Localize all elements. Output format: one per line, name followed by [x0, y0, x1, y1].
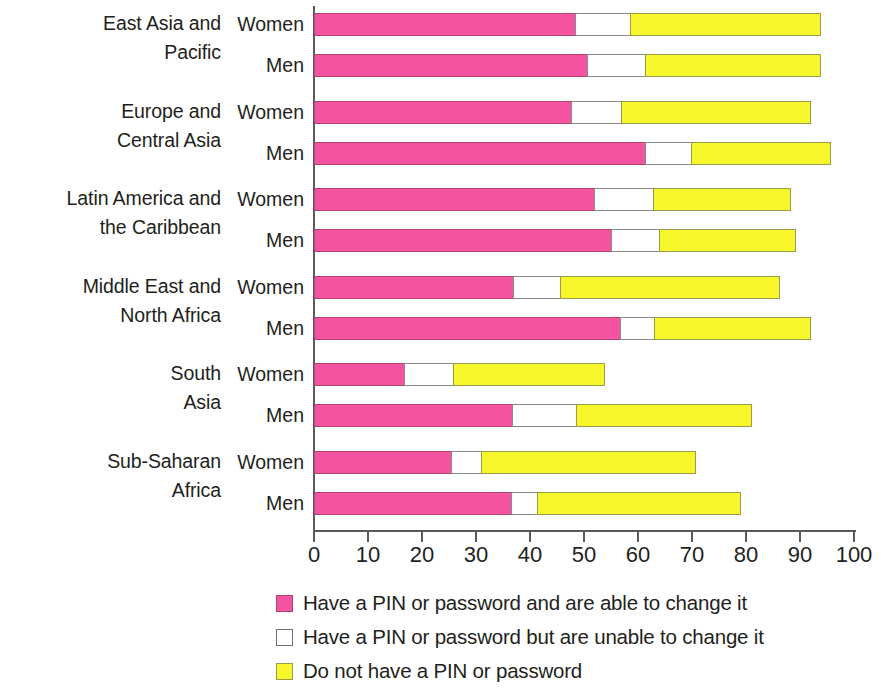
- bar-segment-pin-changeable: [314, 13, 576, 36]
- bar-row: Women: [0, 8, 881, 41]
- bar-segment-no-pin: [560, 276, 780, 299]
- bar-segment-no-pin: [653, 188, 791, 211]
- bar-segment-pin-fixed: [511, 492, 538, 515]
- chart-legend: Have a PIN or password and are able to c…: [276, 586, 881, 688]
- row-series-label: Men: [218, 224, 304, 257]
- bar-segment-no-pin: [691, 142, 831, 165]
- bar-row: Women: [0, 96, 881, 129]
- bar-segment-pin-fixed: [575, 13, 631, 36]
- x-axis-tick-label: 50: [554, 541, 614, 569]
- row-series-label: Men: [218, 137, 304, 170]
- bar-segment-no-pin: [621, 101, 811, 124]
- row-series-label: Women: [218, 358, 304, 391]
- bar-row: Women: [0, 358, 881, 391]
- stacked-bar: [314, 451, 696, 474]
- legend-swatch-pin-changeable: [276, 595, 293, 612]
- bar-row: Men: [0, 49, 881, 82]
- stacked-bar: [314, 54, 821, 77]
- stacked-bar: [314, 363, 605, 386]
- stacked-bar: [314, 229, 796, 252]
- legend-label: Have a PIN or password and are able to c…: [303, 590, 747, 616]
- bar-segment-pin-fixed: [513, 276, 561, 299]
- row-series-label: Women: [218, 271, 304, 304]
- stacked-bar: [314, 142, 831, 165]
- bar-group: East Asia and PacificWomenMen: [0, 8, 881, 82]
- stacked-bar-chart: East Asia and PacificWomenMenEurope and …: [0, 0, 881, 694]
- bar-segment-no-pin: [481, 451, 696, 474]
- bar-segment-no-pin: [576, 404, 752, 427]
- bar-row: Men: [0, 399, 881, 432]
- legend-item[interactable]: Do not have a PIN or password: [276, 654, 881, 688]
- bar-segment-pin-changeable: [314, 276, 514, 299]
- bar-segment-pin-changeable: [314, 229, 612, 252]
- legend-swatch-pin-fixed: [276, 629, 293, 646]
- bar-segment-no-pin: [630, 13, 821, 36]
- bar-row: Women: [0, 183, 881, 216]
- x-axis-tick-label: 0: [284, 541, 344, 569]
- bar-group: Sub-Saharan AfricaWomenMen: [0, 446, 881, 520]
- row-series-label: Men: [218, 49, 304, 82]
- legend-item[interactable]: Have a PIN or password but are unable to…: [276, 620, 881, 654]
- row-series-label: Women: [218, 446, 304, 479]
- bar-group: Middle East and North AfricaWomenMen: [0, 271, 881, 345]
- bar-row: Men: [0, 224, 881, 257]
- bar-segment-no-pin: [645, 54, 821, 77]
- bar-group: South AsiaWomenMen: [0, 358, 881, 432]
- stacked-bar: [314, 101, 811, 124]
- bar-segment-pin-fixed: [645, 142, 692, 165]
- bar-segment-pin-changeable: [314, 492, 512, 515]
- legend-swatch-no-pin: [276, 663, 293, 680]
- x-axis-tick-label: 100: [824, 541, 881, 569]
- bar-segment-no-pin: [654, 317, 811, 340]
- x-axis-tick-label: 10: [338, 541, 398, 569]
- stacked-bar: [314, 492, 741, 515]
- bar-row: Women: [0, 271, 881, 304]
- bar-group: Europe and Central AsiaWomenMen: [0, 96, 881, 170]
- bar-segment-pin-changeable: [314, 317, 621, 340]
- legend-label: Have a PIN or password but are unable to…: [303, 624, 764, 650]
- x-axis-tick-label: 30: [446, 541, 506, 569]
- stacked-bar: [314, 13, 821, 36]
- x-axis-tick-label: 60: [608, 541, 668, 569]
- bar-segment-pin-changeable: [314, 101, 572, 124]
- bar-row: Men: [0, 487, 881, 520]
- x-axis-tick-label: 40: [500, 541, 560, 569]
- bar-segment-pin-changeable: [314, 404, 513, 427]
- bar-row: Women: [0, 446, 881, 479]
- bar-segment-pin-changeable: [314, 363, 405, 386]
- bar-segment-no-pin: [659, 229, 796, 252]
- row-series-label: Men: [218, 399, 304, 432]
- row-series-label: Women: [218, 8, 304, 41]
- x-axis-tick-label: 80: [716, 541, 776, 569]
- plot-area: East Asia and PacificWomenMenEurope and …: [0, 0, 881, 540]
- bar-group: Latin America and the CaribbeanWomenMen: [0, 183, 881, 257]
- bar-segment-no-pin: [453, 363, 605, 386]
- row-series-label: Women: [218, 96, 304, 129]
- x-axis-tick-label: 70: [662, 541, 722, 569]
- bar-segment-pin-changeable: [314, 451, 452, 474]
- bar-segment-pin-fixed: [620, 317, 655, 340]
- bar-row: Men: [0, 137, 881, 170]
- row-series-label: Men: [218, 312, 304, 345]
- legend-label: Do not have a PIN or password: [303, 658, 582, 684]
- x-axis-tick-label: 90: [770, 541, 830, 569]
- bar-segment-pin-fixed: [571, 101, 622, 124]
- legend-item[interactable]: Have a PIN or password and are able to c…: [276, 586, 881, 620]
- bar-segment-pin-fixed: [404, 363, 454, 386]
- bar-row: Men: [0, 312, 881, 345]
- stacked-bar: [314, 404, 752, 427]
- x-axis-tick-label: 20: [392, 541, 452, 569]
- bar-segment-pin-changeable: [314, 188, 595, 211]
- row-series-label: Women: [218, 183, 304, 216]
- stacked-bar: [314, 317, 811, 340]
- stacked-bar: [314, 276, 780, 299]
- stacked-bar: [314, 188, 791, 211]
- x-axis-tick-labels: 0102030405060708090100: [0, 541, 881, 571]
- bar-segment-pin-fixed: [512, 404, 577, 427]
- row-series-label: Men: [218, 487, 304, 520]
- bar-segment-pin-changeable: [314, 54, 588, 77]
- bar-segment-pin-fixed: [451, 451, 482, 474]
- bar-segment-pin-fixed: [611, 229, 660, 252]
- bar-segment-pin-changeable: [314, 142, 646, 165]
- bar-segment-no-pin: [537, 492, 741, 515]
